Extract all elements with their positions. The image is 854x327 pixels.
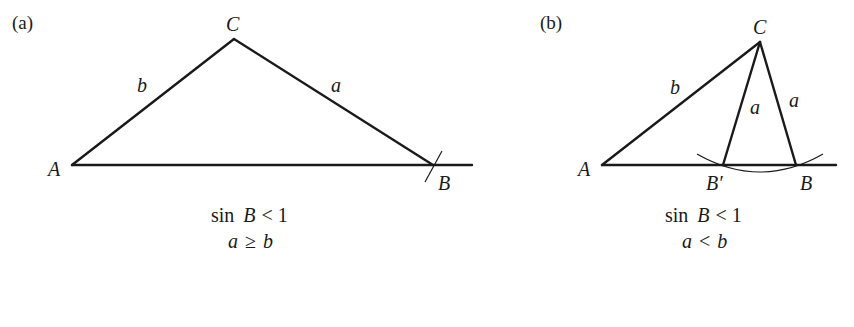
panel-b-compass-arc [697,154,823,172]
panel-a-side-b-label: b [137,74,147,96]
panel-a-vertex-a: A [46,158,61,180]
panel-b-vertex-b: B [800,172,812,194]
panel-a-vertex-c: C [226,13,240,35]
panel-b-side-a2-label: a [789,89,799,111]
panel-b-side-b [602,42,760,165]
panel-a-side-a [234,39,433,165]
panel-a: (a) C A B b a sin B < 1 a ≥ b [12,12,472,252]
panel-b-side-a1-label: a [750,96,760,118]
panel-b-vertex-c: C [753,16,767,38]
panel-a-caption-line2: a ≥ b [228,230,273,252]
panel-b-vertex-a: A [576,158,591,180]
panel-b: (b) C A B′ B b a a sin B < 1 a < b [540,12,836,252]
panel-a-tag: (a) [12,12,33,34]
panel-a-vertex-b: B [438,172,450,194]
triangle-ambiguous-case-diagram: (a) C A B b a sin B < 1 a ≥ b (b) C A B′… [0,0,854,327]
panel-b-tag: (b) [540,12,562,34]
panel-a-side-b [72,39,234,165]
panel-b-caption-line2: a < b [682,230,727,252]
panel-b-caption-line1: sin B < 1 [665,204,742,226]
panel-a-caption-line1: sin B < 1 [211,204,288,226]
panel-a-side-a-label: a [331,74,341,96]
panel-b-vertex-b-prime: B′ [706,172,723,194]
panel-b-side-b-label: b [670,76,680,98]
